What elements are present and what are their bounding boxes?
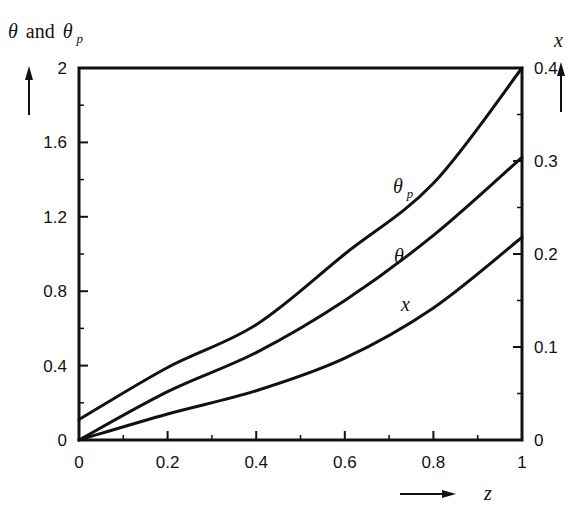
curve-label-theta: θ bbox=[394, 245, 404, 267]
x-tick-label: 1 bbox=[517, 453, 526, 472]
curve-label-theta-p: θ p bbox=[393, 175, 414, 201]
left-axis-title: θ and θ p bbox=[8, 20, 84, 46]
right-tick-label: 0.1 bbox=[534, 338, 558, 357]
curve-label-x: x bbox=[400, 293, 410, 315]
curve-theta-p bbox=[79, 68, 522, 420]
chart: 00.20.40.60.8100.40.81.21.6200.10.20.30.… bbox=[0, 0, 579, 523]
left-tick-label: 1.2 bbox=[43, 208, 67, 227]
left-tick-label: 1.6 bbox=[43, 133, 67, 152]
x-tick-label: 0 bbox=[74, 453, 83, 472]
axis-ticks bbox=[79, 68, 522, 440]
x-tick-label: 0.6 bbox=[333, 453, 357, 472]
x-axis-arrow-icon bbox=[400, 490, 456, 498]
right-axis-title: x bbox=[553, 29, 563, 51]
curve-x bbox=[79, 237, 522, 440]
right-tick-label: 0 bbox=[534, 431, 543, 450]
left-tick-label: 0.4 bbox=[43, 357, 67, 376]
left-axis-arrow-icon bbox=[25, 66, 33, 115]
x-tick-label: 0.2 bbox=[156, 453, 180, 472]
right-tick-label: 0.4 bbox=[534, 59, 558, 78]
left-tick-label: 0 bbox=[58, 431, 67, 450]
right-tick-label: 0.2 bbox=[534, 245, 558, 264]
x-tick-label: 0.8 bbox=[422, 453, 446, 472]
axis-tick-labels: 00.20.40.60.8100.40.81.21.6200.10.20.30.… bbox=[43, 59, 557, 472]
right-tick-label: 0.3 bbox=[534, 152, 558, 171]
left-tick-label: 0.8 bbox=[43, 282, 67, 301]
left-tick-label: 2 bbox=[58, 59, 67, 78]
curves bbox=[79, 68, 522, 440]
right-axis-arrow-icon bbox=[557, 62, 565, 112]
plot-frame bbox=[79, 68, 522, 440]
curve-theta bbox=[79, 157, 522, 440]
x-tick-label: 0.4 bbox=[244, 453, 268, 472]
x-axis-title: z bbox=[483, 482, 492, 504]
